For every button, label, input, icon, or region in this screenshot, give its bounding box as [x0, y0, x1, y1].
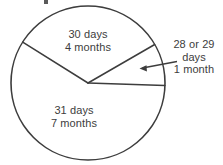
pie-chart-graphic [0, 0, 223, 165]
pie-slice-label-30-days: 30 days 4 months [42, 28, 134, 53]
pie-slice-label-31-days: 31 days 7 months [28, 104, 120, 129]
pie-slice-label-28-or-29-days: 28 or 29 days 1 month [166, 38, 222, 76]
pie-chart-figure: 30 days 4 months 31 days 7 months 28 or … [0, 0, 223, 165]
